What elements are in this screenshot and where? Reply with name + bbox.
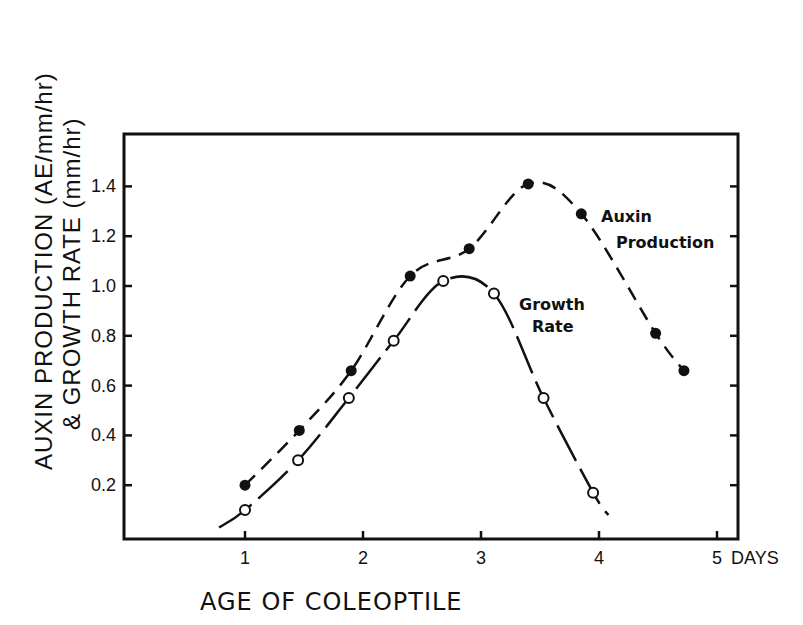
x-tick-label: 3 [476, 548, 486, 568]
data-point-open [293, 455, 303, 465]
data-point-open [389, 336, 399, 346]
growth-label-2: Rate [532, 317, 574, 336]
data-point-filled [523, 178, 534, 189]
y-axis-title-line1: AUXIN PRODUCTION (AE/mm/hr) [30, 72, 57, 470]
data-point-filled [346, 365, 357, 376]
data-point-open [438, 276, 448, 286]
x-axis-title: AGE OF COLEOPTILE [200, 588, 463, 616]
data-point-filled [405, 271, 416, 282]
growth-label: Growth [519, 295, 585, 314]
data-point-open [489, 288, 499, 298]
auxin-label-2: Production [616, 233, 714, 252]
y-tick-label: 0.2 [91, 475, 116, 495]
data-point-filled [294, 425, 305, 436]
y-axis-title-line2: & GROWTH RATE (mm/hr) [58, 117, 85, 430]
y-tick-label: 0.6 [91, 376, 116, 396]
chart-canvas: 0.20.40.60.81.01.21.412345DAYS AUXIN PRO… [0, 0, 803, 625]
data-point-open [240, 505, 250, 515]
y-tick-label: 0.8 [91, 326, 116, 346]
growth-rate-line [219, 276, 608, 527]
data-point-filled [464, 243, 475, 254]
y-tick-label: 1.4 [91, 176, 116, 196]
data-point-filled [240, 480, 251, 491]
x-tick-label: 5 [712, 548, 722, 568]
x-tick-label: 2 [358, 548, 368, 568]
data-series [219, 178, 689, 527]
data-point-filled [576, 208, 587, 219]
y-tick-label: 0.4 [91, 425, 116, 445]
x-tick-label: 4 [594, 548, 604, 568]
data-point-filled [650, 328, 661, 339]
x-unit-label: DAYS [731, 548, 779, 568]
plot-area: 0.20.40.60.81.01.21.412345DAYS [91, 134, 779, 568]
data-point-open [539, 393, 549, 403]
chart-labels: AUXIN PRODUCTION (AE/mm/hr)& GROWTH RATE… [30, 72, 714, 470]
data-point-open [588, 488, 598, 498]
data-point-filled [678, 365, 689, 376]
axis-frame [124, 134, 738, 539]
data-point-open [344, 393, 354, 403]
y-tick-label: 1.2 [91, 226, 116, 246]
y-tick-label: 1.0 [91, 276, 116, 296]
auxin-production-line [245, 182, 684, 485]
x-tick-label: 1 [240, 548, 250, 568]
auxin-label: Auxin [601, 207, 652, 226]
